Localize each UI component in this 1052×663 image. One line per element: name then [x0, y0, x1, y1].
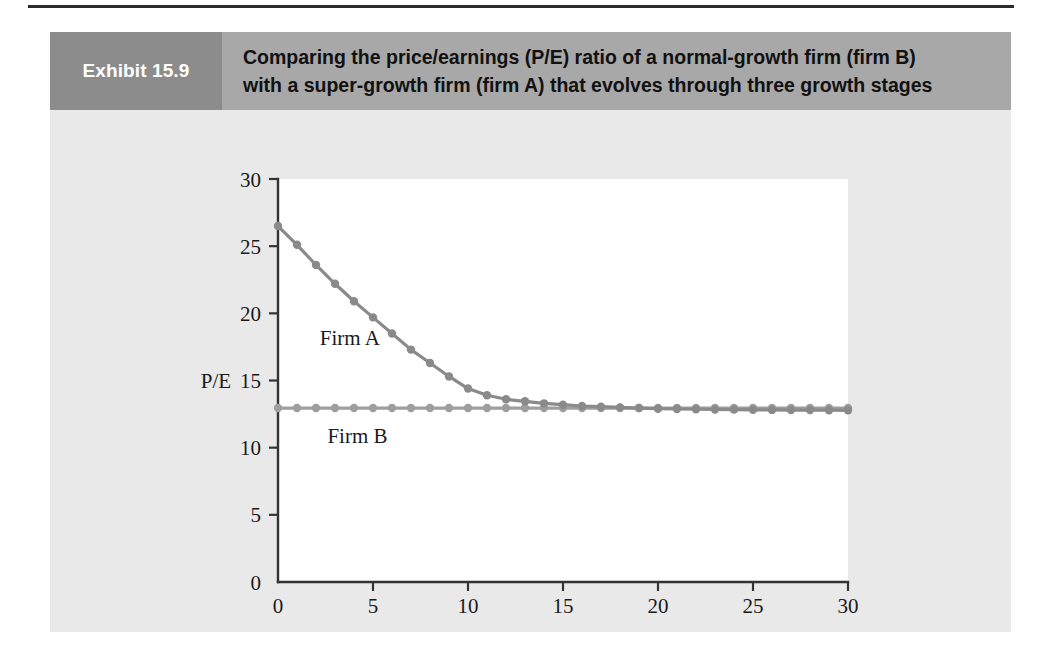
- series-marker: [350, 404, 358, 412]
- series-marker: [749, 406, 757, 414]
- series-marker: [407, 345, 415, 353]
- x-axis-title: Year: [544, 631, 583, 632]
- x-tick-label: 10: [458, 594, 479, 618]
- series-marker: [654, 405, 662, 413]
- series-marker: [521, 397, 529, 405]
- series-marker: [635, 404, 643, 412]
- exhibit-number-block: Exhibit 15.9: [50, 32, 222, 110]
- series-marker: [692, 405, 700, 413]
- series-marker: [787, 406, 795, 414]
- series-marker: [578, 402, 586, 410]
- y-tick-label: 25: [240, 235, 261, 259]
- x-tick-label: 5: [368, 594, 379, 618]
- page-top-rule: [28, 5, 1014, 8]
- series-marker: [274, 404, 282, 412]
- series-marker: [844, 406, 852, 414]
- series-marker: [445, 372, 453, 380]
- series-marker: [673, 405, 681, 413]
- x-tick-label: 20: [648, 594, 669, 618]
- series-marker: [730, 405, 738, 413]
- y-tick-label: 30: [240, 168, 261, 192]
- series-marker: [388, 404, 396, 412]
- exhibit-title-text: Comparing the price/earnings (P/E) ratio…: [222, 32, 1011, 110]
- series-marker: [559, 400, 567, 408]
- series-marker: [331, 280, 339, 288]
- series-marker: [502, 404, 510, 412]
- series-marker: [483, 391, 491, 399]
- series-marker: [464, 404, 472, 412]
- series-marker: [331, 404, 339, 412]
- series-marker: [312, 261, 320, 269]
- y-tick-label: 5: [251, 503, 262, 527]
- series-marker: [502, 395, 510, 403]
- series-marker: [312, 404, 320, 412]
- series-marker: [825, 406, 833, 414]
- series-marker: [426, 404, 434, 412]
- series-line-firm-a: [278, 226, 848, 410]
- series-marker: [768, 406, 776, 414]
- series-marker: [483, 404, 491, 412]
- series-marker: [274, 222, 282, 230]
- exhibit-title-band: Exhibit 15.9 Comparing the price/earning…: [50, 32, 1011, 110]
- y-axis-title: P/E: [201, 369, 231, 393]
- series-marker: [369, 313, 377, 321]
- series-marker: [350, 297, 358, 305]
- exhibit-title-line-1: Comparing the price/earnings (P/E) ratio…: [243, 43, 999, 71]
- x-tick-label: 0: [273, 594, 284, 618]
- y-tick-label: 10: [240, 436, 261, 460]
- y-tick-label: 15: [240, 369, 261, 393]
- y-tick-label: 20: [240, 302, 261, 326]
- series-marker: [293, 241, 301, 249]
- series-marker: [426, 359, 434, 367]
- series-marker: [293, 404, 301, 412]
- series-marker: [711, 405, 719, 413]
- series-marker: [806, 406, 814, 414]
- series-marker: [597, 402, 605, 410]
- chart-series-group: [274, 222, 852, 415]
- x-tick-label: 15: [553, 594, 574, 618]
- y-tick-label: 0: [251, 571, 262, 595]
- exhibit-panel: Exhibit 15.9 Comparing the price/earning…: [50, 32, 1011, 632]
- chart-text-labels: 051015202530051015202530P/EYearFirm AFir…: [201, 168, 859, 633]
- series-marker: [445, 404, 453, 412]
- x-tick-label: 30: [838, 594, 859, 618]
- series-marker: [616, 403, 624, 411]
- series-marker: [464, 384, 472, 392]
- series-marker: [407, 404, 415, 412]
- series-marker: [388, 329, 396, 337]
- series-marker: [540, 399, 548, 407]
- pe-ratio-line-chart: 051015202530051015202530P/EYearFirm AFir…: [50, 110, 1011, 632]
- exhibit-number-label: Exhibit 15.9: [83, 60, 190, 82]
- series-annotation: Firm B: [327, 424, 387, 448]
- x-tick-label: 25: [743, 594, 764, 618]
- exhibit-title-line-2: with a super-growth firm (firm A) that e…: [243, 71, 999, 99]
- chart-axes: [269, 179, 848, 591]
- chart-stage: 051015202530051015202530P/EYearFirm AFir…: [50, 110, 1011, 632]
- series-marker: [369, 404, 377, 412]
- series-annotation: Firm A: [320, 326, 381, 350]
